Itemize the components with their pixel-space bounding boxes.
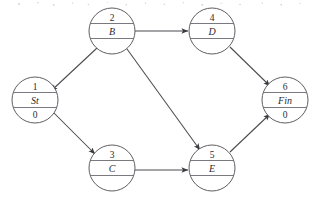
- node-6[interactable]: 6Fin0: [262, 77, 308, 123]
- node-label-5: E: [208, 163, 215, 174]
- node-3[interactable]: 3C: [89, 145, 135, 191]
- edge-2-to-1: [51, 48, 97, 91]
- node-4[interactable]: 4D: [189, 8, 235, 54]
- node-id-4: 4: [210, 13, 215, 23]
- node-label-3: C: [109, 163, 116, 174]
- node-id-6: 6: [283, 82, 288, 92]
- edge-1-to-3: [51, 110, 95, 154]
- node-1[interactable]: 1St0: [12, 77, 58, 123]
- node-id-3: 3: [110, 150, 115, 160]
- node-label-1: St: [31, 95, 39, 106]
- node-label-6: Fin: [277, 95, 292, 106]
- node-5[interactable]: 5E: [189, 145, 235, 191]
- edges-layer: [51, 31, 270, 170]
- edge-2-to-5: [127, 49, 200, 150]
- node-id-5: 5: [210, 150, 215, 160]
- nodes-layer: 1St02B3C4D5E6Fin0: [12, 8, 308, 191]
- node-id-2: 2: [110, 13, 115, 23]
- node-2[interactable]: 2B: [89, 8, 135, 54]
- node-label-4: D: [207, 26, 216, 37]
- node-value-1: 0: [33, 110, 38, 120]
- node-value-6: 0: [283, 110, 288, 120]
- edge-5-to-6: [230, 114, 270, 152]
- node-label-2: B: [109, 26, 115, 37]
- diagram-canvas: 1St02B3C4D5E6Fin0: [0, 0, 316, 202]
- edge-4-to-6: [230, 47, 270, 86]
- activity-network-graph: 1St02B3C4D5E6Fin0: [0, 0, 316, 202]
- node-id-1: 1: [33, 82, 38, 92]
